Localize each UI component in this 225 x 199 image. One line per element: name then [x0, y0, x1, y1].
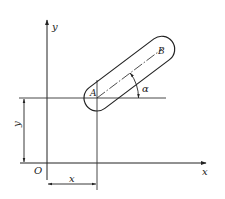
- x-axis-label: x: [202, 166, 208, 177]
- origin-label: O: [34, 165, 42, 176]
- dim-y-label: y: [11, 121, 22, 128]
- point-b-label: B: [157, 46, 165, 56]
- diagram-canvas: y x O A B α x y: [0, 0, 225, 199]
- point-a-label: A: [89, 88, 97, 98]
- y-axis-label: y: [51, 21, 58, 32]
- angle-alpha-label: α: [142, 83, 149, 94]
- dim-x-label: x: [69, 173, 75, 184]
- slot-centerline: [97, 49, 162, 98]
- slot-shape: [79, 31, 180, 116]
